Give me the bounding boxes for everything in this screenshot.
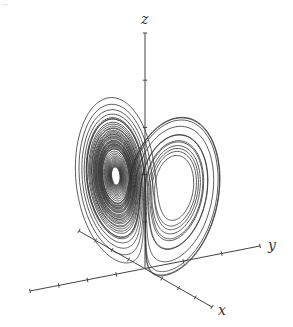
attractor-trajectory [75,98,220,276]
y-axis-tick [87,278,88,282]
axes-group [30,33,261,309]
y-axis-tick [116,272,117,276]
x-axis-label: x [218,303,226,317]
y-axis-tick [221,252,222,256]
y-axis-tick [260,244,261,248]
y-axis-tick [30,289,31,293]
attractor-plot [0,0,293,327]
y-axis-label: y [268,238,276,252]
z-axis-label: z [141,12,148,26]
y-axis-tick [58,283,59,287]
